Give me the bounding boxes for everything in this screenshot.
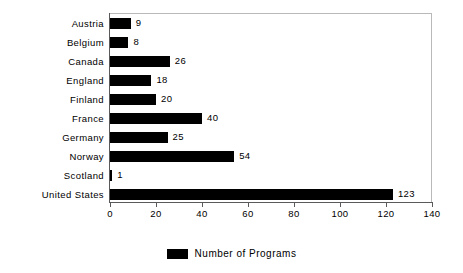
category-label: France xyxy=(0,113,104,124)
bar-row: 8 xyxy=(110,37,432,48)
bar-value-label: 54 xyxy=(239,150,250,161)
bar-value-label: 1 xyxy=(117,169,123,180)
legend-swatch-icon xyxy=(167,249,188,259)
bar xyxy=(110,189,393,200)
bar-value-label: 9 xyxy=(136,17,142,28)
bar xyxy=(110,18,131,29)
x-axis-tick-label: 60 xyxy=(242,208,253,219)
bar-value-label: 25 xyxy=(173,131,184,142)
bar-chart: AustriaBelgiumCanadaEnglandFinlandFrance… xyxy=(0,0,463,273)
bar-row: 1 xyxy=(110,170,432,181)
bar xyxy=(110,170,112,181)
bar-value-label: 8 xyxy=(133,36,139,47)
x-axis-tick-label: 100 xyxy=(331,208,348,219)
bar xyxy=(110,94,156,105)
category-label: Germany xyxy=(0,132,104,143)
bar-row: 123 xyxy=(110,189,432,200)
value-axis-ticks: 020406080100120140 xyxy=(110,203,432,223)
bar-row: 26 xyxy=(110,56,432,67)
x-axis-tick-label: 40 xyxy=(196,208,207,219)
bar xyxy=(110,75,151,86)
bar xyxy=(110,113,202,124)
x-axis-tick xyxy=(340,203,341,207)
category-label: Austria xyxy=(0,18,104,29)
bar-row: 40 xyxy=(110,113,432,124)
bar-row: 54 xyxy=(110,151,432,162)
bar-series-number-of-programs: 982618204025541123 xyxy=(110,13,432,203)
legend-label: Number of Programs xyxy=(195,248,297,260)
bar xyxy=(110,132,168,143)
x-axis-tick xyxy=(156,203,157,207)
bar xyxy=(110,37,128,48)
x-axis-tick-label: 20 xyxy=(150,208,161,219)
bar-value-label: 123 xyxy=(398,188,415,199)
bar-row: 20 xyxy=(110,94,432,105)
category-label: Canada xyxy=(0,56,104,67)
category-label: United States xyxy=(0,189,104,200)
category-label: Scotland xyxy=(0,170,104,181)
category-axis-labels: AustriaBelgiumCanadaEnglandFinlandFrance… xyxy=(0,13,104,203)
bar-row: 18 xyxy=(110,75,432,86)
x-axis-tick xyxy=(432,203,433,207)
x-axis-tick xyxy=(386,203,387,207)
category-label: Belgium xyxy=(0,37,104,48)
category-label: Norway xyxy=(0,151,104,162)
bar xyxy=(110,151,234,162)
bar-row: 25 xyxy=(110,132,432,143)
bar-value-label: 26 xyxy=(175,55,186,66)
x-axis-tick-label: 120 xyxy=(377,208,394,219)
bar-value-label: 20 xyxy=(161,93,172,104)
x-axis-tick xyxy=(248,203,249,207)
x-axis-tick-label: 0 xyxy=(107,208,113,219)
bar xyxy=(110,56,170,67)
legend: Number of Programs xyxy=(0,243,463,265)
x-axis-tick xyxy=(110,203,111,207)
category-label: England xyxy=(0,75,104,86)
bar-row: 9 xyxy=(110,18,432,29)
x-axis-tick-label: 80 xyxy=(288,208,299,219)
legend-item-number-of-programs: Number of Programs xyxy=(167,248,297,260)
x-axis-tick xyxy=(294,203,295,207)
bar-value-label: 40 xyxy=(207,112,218,123)
x-axis-tick xyxy=(202,203,203,207)
x-axis-tick-label: 140 xyxy=(423,208,440,219)
bar-value-label: 18 xyxy=(156,74,167,85)
category-label: Finland xyxy=(0,94,104,105)
